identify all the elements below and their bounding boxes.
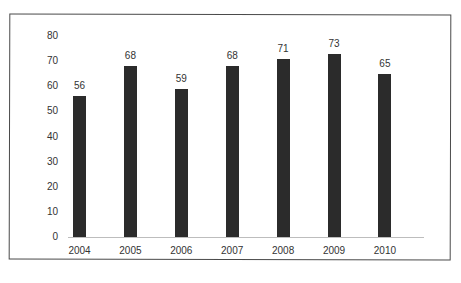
- data-label: 73: [319, 38, 349, 49]
- y-tick-label: 0: [30, 232, 58, 242]
- y-tick-label: 40: [30, 132, 58, 142]
- x-tick-label: 2007: [214, 245, 250, 256]
- data-label: 59: [166, 73, 196, 84]
- bar-2006: [175, 89, 188, 237]
- bar-2005: [124, 66, 137, 237]
- bar-2009: [328, 54, 341, 237]
- bar-2008: [277, 59, 290, 237]
- x-tick-label: 2004: [62, 245, 98, 256]
- y-tick-label: 70: [30, 56, 58, 66]
- y-tick-label: 30: [30, 157, 58, 167]
- x-tick-label: 2008: [265, 245, 301, 256]
- x-axis-line: [68, 237, 424, 238]
- y-tick-label: 80: [30, 31, 58, 41]
- x-tick-label: 2009: [316, 245, 352, 256]
- data-label: 68: [115, 50, 145, 61]
- data-label: 56: [65, 80, 95, 91]
- y-tick-label: 50: [30, 106, 58, 116]
- data-label: 71: [268, 43, 298, 54]
- x-tick-label: 2010: [367, 245, 403, 256]
- data-label: 65: [370, 58, 400, 69]
- y-tick-label: 10: [30, 207, 58, 217]
- x-tick-label: 2005: [112, 245, 148, 256]
- bar-2004: [73, 96, 86, 237]
- x-tick-label: 2006: [163, 245, 199, 256]
- bar-2007: [226, 66, 239, 237]
- data-label: 68: [217, 50, 247, 61]
- y-tick-label: 20: [30, 182, 58, 192]
- y-tick-label: 60: [30, 81, 58, 91]
- bar-2010: [378, 74, 391, 237]
